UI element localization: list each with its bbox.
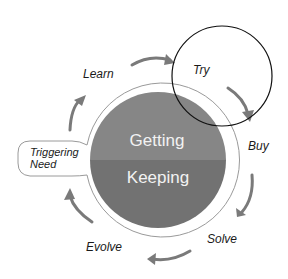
- stage-buy-label: Buy: [248, 140, 269, 152]
- keeping-label: Keeping: [108, 169, 208, 186]
- triggering-need-line1: Triggering: [30, 146, 79, 158]
- stage-solve-label: Solve: [207, 233, 237, 245]
- arrow-learn-to-try-icon: [132, 54, 175, 65]
- getting-label: Getting: [107, 132, 207, 149]
- triggering-need-label: Triggering Need: [30, 146, 79, 170]
- arrow-solve-to-evolve-icon: [147, 251, 190, 265]
- stage-evolve-label: Evolve: [86, 241, 122, 253]
- arrow-buy-to-solve-icon: [236, 175, 252, 217]
- stage-learn-label: Learn: [83, 68, 114, 80]
- triggering-need-line2: Need: [30, 158, 79, 170]
- arrow-evolve-upward-icon: [64, 188, 92, 222]
- arrow-trigger-to-learn-icon: [70, 95, 86, 130]
- customer-lifecycle-diagram: Getting Keeping Learn Try Buy Solve Evol…: [0, 0, 288, 279]
- stage-try-label: Try: [193, 64, 209, 76]
